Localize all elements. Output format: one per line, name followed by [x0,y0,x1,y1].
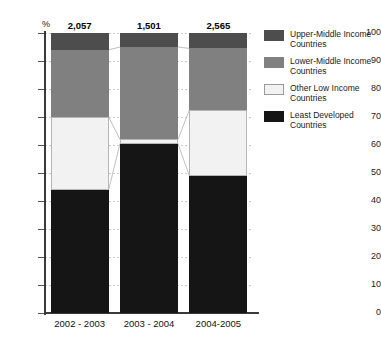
bar-segment[interactable] [51,117,109,190]
bar-3[interactable] [189,33,247,313]
bar-segment[interactable] [189,48,247,110]
bar-segment[interactable] [189,33,247,48]
bar-segment[interactable] [189,176,247,313]
legend-item[interactable]: Upper-Middle Income Countries [264,29,379,49]
bar-segment[interactable] [120,47,178,139]
y-axis-tick-label: 0 [351,308,381,317]
x-axis-category-label: 2004-2005 [177,318,259,329]
bar-segment[interactable] [51,33,109,50]
y-axis-tick-label: 30 [351,224,381,233]
plot-area [45,33,253,313]
bar-segment[interactable] [120,144,178,313]
bar-segment[interactable] [51,50,109,117]
legend-item-label: Lower-Middle Income Countries [290,56,379,76]
y-axis-tick-label: 40 [351,196,381,205]
y-axis-tick-label: 20 [351,252,381,261]
bar-2[interactable] [120,33,178,313]
upper-middle-swatch [264,30,284,41]
bar-segment[interactable] [120,139,178,143]
bar-total-label: 1,501 [114,20,184,31]
legend-item[interactable]: Lower-Middle Income Countries [264,56,379,76]
bar-total-label: 2,057 [45,20,115,31]
y-axis-tick-label: 10 [351,280,381,289]
legend-item-label: Least Developed Countries [290,110,379,130]
bar-total-label: 2,565 [183,20,253,31]
legend-item-label: Other Low Income Countries [290,83,379,103]
other-low-swatch [264,84,284,95]
chart-legend: Upper-Middle Income CountriesLower-Middl… [264,29,379,137]
bar-1[interactable] [51,33,109,313]
legend-item-label: Upper-Middle Income Countries [290,29,379,49]
y-axis-tick-label: 50 [351,168,381,177]
stacked-bar-chart: % 1009080706050403020100 2,0572002 - 200… [0,0,381,339]
bar-segment[interactable] [189,110,247,176]
y-axis-tick-label: 60 [351,140,381,149]
bar-segment[interactable] [120,33,178,47]
bar-segment[interactable] [51,190,109,313]
lower-middle-swatch [264,57,284,68]
least-developed-swatch [264,111,284,122]
legend-item[interactable]: Other Low Income Countries [264,83,379,103]
legend-item[interactable]: Least Developed Countries [264,110,379,130]
